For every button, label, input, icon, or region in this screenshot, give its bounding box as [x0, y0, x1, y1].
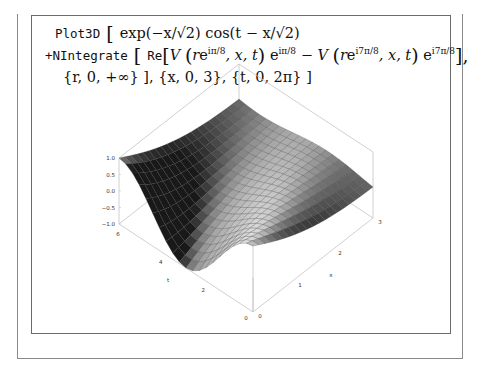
- t-tick-label: 4: [159, 259, 163, 265]
- z-tick-label: −0.5: [102, 205, 116, 211]
- t-axis-label: t: [167, 277, 170, 283]
- surface-plot-3d: 1.00.50.0−0.5−1.002460123tx: [0, 0, 482, 375]
- plot-group: 1.00.50.0−0.5−1.002460123tx: [102, 64, 383, 321]
- x-axis-label: x: [329, 272, 333, 278]
- x-tick-label: 2: [338, 250, 342, 256]
- surface-mesh: [119, 99, 373, 271]
- x-tick-label: 1: [298, 282, 302, 288]
- x-tick-label: 3: [378, 219, 382, 225]
- z-tick-label: 0.0: [106, 188, 115, 194]
- t-tick-label: 6: [116, 231, 120, 237]
- z-tick-label: 0.5: [106, 172, 115, 178]
- z-tick-label: 1.0: [106, 155, 115, 161]
- t-tick-label: 0: [244, 315, 248, 321]
- t-tick-label: 2: [202, 287, 206, 293]
- z-tick-label: −1.0: [102, 221, 116, 227]
- x-tick-label: 0: [258, 313, 262, 319]
